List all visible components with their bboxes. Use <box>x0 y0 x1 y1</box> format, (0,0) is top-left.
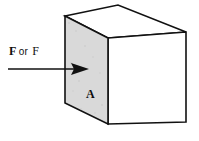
cube-right-face <box>108 32 186 124</box>
area-label: A <box>86 87 95 102</box>
force-scalar-symbol: F <box>30 44 39 58</box>
force-vector-symbol: F <box>9 44 17 58</box>
force-on-cube-figure: ForF A <box>0 0 199 141</box>
force-label: ForF <box>9 45 39 58</box>
cube-diagram-svg <box>0 0 199 141</box>
force-label-conjunction: or <box>17 46 30 57</box>
